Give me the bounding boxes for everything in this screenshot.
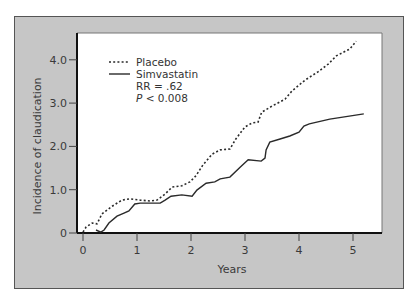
x-tick-label: 3 <box>242 244 249 257</box>
y-tick-label: 1.0 <box>50 184 68 197</box>
y-axis-ticks: 01.02.03.04.0 <box>50 54 78 240</box>
plot-area <box>77 33 382 233</box>
x-axis-ticks: 012345 <box>80 233 357 257</box>
x-tick-label: 1 <box>134 244 141 257</box>
x-axis-title: Years <box>216 263 246 276</box>
y-tick-label: 3.0 <box>50 97 68 110</box>
legend-placebo-label: Placebo <box>136 56 177 68</box>
x-tick-label: 2 <box>188 244 195 257</box>
chart: 01.02.03.04.0 012345 Placebo Simvastatin… <box>0 0 419 303</box>
legend-rr-annotation: RR = .62 <box>136 80 183 92</box>
x-tick-label: 4 <box>296 244 303 257</box>
y-tick-label: 0 <box>60 227 67 240</box>
p-value: < 0.008 <box>142 92 188 104</box>
y-tick-label: 2.0 <box>50 140 68 153</box>
x-tick-label: 0 <box>80 244 87 257</box>
y-axis-title: Incidence of claudication <box>31 77 44 214</box>
legend-p-annotation: P < 0.008 <box>136 92 188 104</box>
legend-simvastatin-label: Simvastatin <box>136 68 198 80</box>
y-tick-label: 4.0 <box>50 54 68 67</box>
x-tick-label: 5 <box>350 244 357 257</box>
